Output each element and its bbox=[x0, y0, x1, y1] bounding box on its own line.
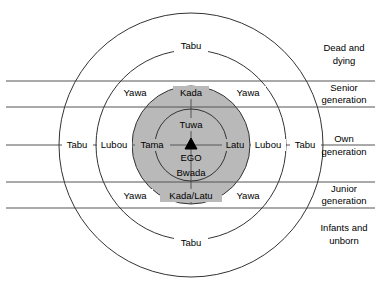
label-ego: EGO bbox=[180, 152, 201, 163]
label-yawa-top-right: Yawa bbox=[236, 87, 260, 98]
label-tabu-bottom: Tabu bbox=[181, 237, 202, 248]
label-tama: Tama bbox=[140, 139, 164, 150]
label-bwada: Bwada bbox=[176, 167, 206, 178]
label-yawa-bottom-left: Yawa bbox=[123, 190, 147, 201]
label-lubou-left: Lubou bbox=[101, 139, 127, 150]
label-tabu-right: Tabu bbox=[295, 139, 316, 150]
label-dead-and-dying-line1: Dead and bbox=[323, 42, 364, 53]
label-junior-generation-line1: Junior bbox=[331, 183, 357, 194]
label-latu: Latu bbox=[226, 139, 245, 150]
label-kada: Kada bbox=[180, 87, 203, 98]
label-infants-and-unborn-line2: unborn bbox=[329, 235, 359, 246]
label-tabu-left: Tabu bbox=[67, 139, 88, 150]
label-dead-and-dying-line2: dying bbox=[333, 55, 356, 66]
label-yawa-top-left: Yawa bbox=[123, 87, 147, 98]
label-own-generation-line1: Own bbox=[334, 133, 354, 144]
label-tuwa: Tuwa bbox=[180, 119, 204, 130]
label-senior-generation-line1: Senior bbox=[330, 82, 357, 93]
label-kada-latu: Kada/Latu bbox=[169, 190, 212, 201]
label-junior-generation-line2: generation bbox=[322, 195, 367, 206]
label-infants-and-unborn-line1: Infants and bbox=[320, 222, 367, 233]
label-yawa-bottom-right: Yawa bbox=[236, 190, 260, 201]
label-tabu-top: Tabu bbox=[181, 40, 202, 51]
label-senior-generation-line2: generation bbox=[322, 94, 367, 105]
label-own-generation-line2: generation bbox=[322, 146, 367, 157]
kinship-diagram: Tabu Tabu Yawa Yawa Yawa Yawa Kada Kada/… bbox=[0, 0, 381, 289]
label-lubou-right: Lubou bbox=[255, 139, 281, 150]
kinship-diagram-canvas: Tabu Tabu Yawa Yawa Yawa Yawa Kada Kada/… bbox=[0, 0, 381, 289]
